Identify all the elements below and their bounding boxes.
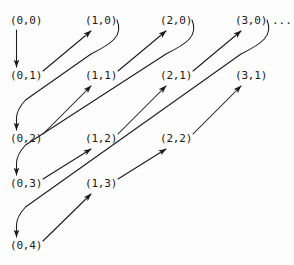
arrow-diagonal-21-to-30 xyxy=(193,31,241,71)
node-label-10: (1,0) xyxy=(85,15,117,27)
node-label-03: (0,3) xyxy=(10,178,42,190)
arrow-diagonal-22-to-31 xyxy=(193,86,241,134)
arrow-diagonal-01-to-10 xyxy=(43,31,91,71)
row-ellipsis-label: ... xyxy=(272,15,292,27)
node-label-30: (3,0) xyxy=(235,15,267,27)
arrow-diagonal-02-to-11 xyxy=(43,86,91,134)
arrow-return-30-to-04 xyxy=(17,20,269,237)
arrow-layer xyxy=(0,0,294,265)
node-label-22: (2,2) xyxy=(160,133,192,145)
node-label-01: (0,1) xyxy=(10,70,42,82)
node-label-00: (0,0) xyxy=(10,15,42,27)
node-label-31: (3,1) xyxy=(235,70,267,82)
node-label-21: (2,1) xyxy=(160,70,192,82)
cantor-enumeration-figure: (0,0)(1,0)(2,0)(3,0)(0,1)(1,1)(2,1)(3,1)… xyxy=(0,0,294,265)
arrow-diagonal-11-to-20 xyxy=(118,31,166,71)
arrow-diagonal-12-to-21 xyxy=(118,86,166,134)
arrow-return-20-to-03 xyxy=(17,20,194,175)
node-label-12: (1,2) xyxy=(85,133,117,145)
node-label-20: (2,0) xyxy=(160,15,192,27)
arrow-diagonal-13-to-22 xyxy=(118,149,166,179)
node-label-11: (1,1) xyxy=(85,70,117,82)
node-label-04: (0,4) xyxy=(10,240,42,252)
node-label-02: (0,2) xyxy=(10,133,42,145)
arrow-diagonal-04-to-13 xyxy=(43,194,91,241)
arrow-diagonal-03-to-12 xyxy=(43,149,91,179)
node-label-13: (1,3) xyxy=(85,178,117,190)
arrow-paths xyxy=(17,20,269,241)
